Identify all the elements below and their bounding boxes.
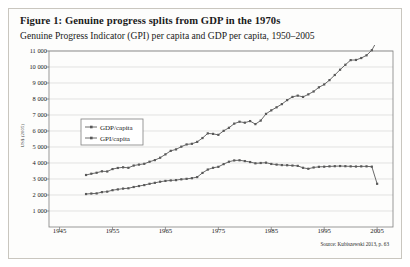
y-tick-label: 4 000: [13, 160, 47, 166]
x-tick-label: 2005: [370, 227, 384, 234]
legend-item-label: GDP/capita: [100, 124, 134, 132]
y-tick-label: 8 000: [13, 96, 47, 102]
figure-card: Figure 1: Genuine progress splits from G…: [8, 8, 402, 259]
y-tick-label: 11 000: [13, 48, 47, 54]
x-axis-ticks: 1945195519651975198519952005: [9, 227, 403, 241]
x-tick-label: 1975: [212, 227, 226, 234]
x-tick-label: 1955: [106, 227, 120, 234]
x-tick-label: 1945: [53, 227, 67, 234]
y-tick-label: 3 000: [13, 176, 47, 182]
y-tick-label: 1 000: [13, 208, 47, 214]
y-tick-label: 6 000: [13, 128, 47, 134]
x-tick-label: 1985: [264, 227, 278, 234]
y-tick-label: 10 000: [13, 64, 47, 70]
source-note: Source: Kubiszewski 2013, p. 63: [320, 241, 389, 247]
legend-item-label: GPI/capita: [100, 135, 131, 143]
line-chart-plot: GDP/capitaGPI/capita: [9, 45, 403, 235]
y-tick-label: 5 000: [13, 144, 47, 150]
y-axis-ticks: 11 00010 0009 0008 0007 0006 0005 0004 0…: [9, 45, 47, 235]
y-tick-label: 7 000: [13, 112, 47, 118]
figure-subtitle: Genuine Progress Indicator (GPI) per cap…: [20, 30, 315, 41]
x-tick-label: 1965: [159, 227, 173, 234]
chart-area: US$ (2005) 11 00010 0009 0008 0007 0006 …: [9, 45, 403, 235]
y-tick-label: 9 000: [13, 80, 47, 86]
x-tick-label: 1995: [317, 227, 331, 234]
figure-title: Figure 1: Genuine progress splits from G…: [20, 15, 280, 26]
y-tick-label: 2 000: [13, 192, 47, 198]
